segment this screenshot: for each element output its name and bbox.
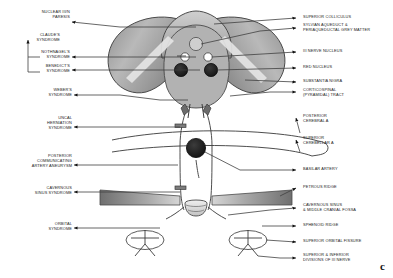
- label-orbital-syndrome: ORBITAL SYNDROME: [2, 222, 72, 232]
- label-sylvian-aqueduct-pag: SYLVIAN AQUEDUCT & PERIAQUEDUCTAL GREY M…: [303, 23, 393, 33]
- label-corticospinal-tract: CORTICOSPINAL (PYRAMIDAL) TRACT: [303, 88, 391, 98]
- basilar-artery-cross-section: [186, 138, 205, 157]
- left-cavernous-sinus-wall: [166, 207, 184, 219]
- right-iii-nerve-nucleus: [204, 53, 212, 61]
- label-superior-orbital-fissure: SUPERIOR ORBITAL FISSURE: [303, 239, 393, 244]
- corner-mark: c: [380, 260, 385, 272]
- third-nerve-course: [180, 108, 212, 210]
- leader-superior-cerebellar-artery: [296, 140, 300, 152]
- label-iii-nerve-nucleus: III NERVE NUCLEUS: [303, 49, 391, 54]
- leader-superior-orbital-fissure: [266, 240, 296, 242]
- right-petrous-ridge: [212, 190, 292, 205]
- sella-pituitary: [185, 200, 207, 216]
- label-red-nucleus: RED NUCLEUS: [303, 65, 391, 70]
- label-basilar-artery: BASILAR ARTERY: [303, 167, 391, 172]
- right-red-nucleus: [204, 63, 217, 76]
- leader-basilar-artery: [205, 152, 296, 170]
- leader-cavernous-sinus-mcf: [228, 208, 296, 215]
- leader-iii-nerve-divisions: [258, 256, 296, 258]
- label-claudes-syndrome: CLAUDE'S SYNDROME: [2, 33, 60, 43]
- label-cavernous-sinus-mcf: CAVERNOUS SINUS & MIDDLE CRANIAL FOSSA: [303, 203, 393, 213]
- label-nuclear-iii-n-paresis: NUCLEAR III/N PARESIS: [2, 10, 70, 20]
- left-iii-nerve: [180, 108, 187, 210]
- right-cavernous-sinus-wall: [208, 207, 226, 219]
- label-posterior-cerebral-artery: POSTERIOR CEREBRAL A: [303, 114, 391, 124]
- right-iii-nerve-divisions: [234, 230, 262, 256]
- posterior-cerebral-artery: [112, 131, 318, 141]
- label-pcom-artery-aneurysm: POSTERIOR COMMUNICATING ARTERY ANEURYSM: [2, 154, 72, 169]
- label-cavernous-sinus-syndrome: CAVERNOUS SINUS SYNDROME: [2, 186, 72, 196]
- label-nothnagels-syndrome: NOTHNAGEL'S SYNDROME: [2, 50, 70, 60]
- left-iii-nerve-divisions: [131, 230, 159, 256]
- leader-posterior-cerebral-artery: [296, 118, 300, 133]
- label-petrous-ridge: PETROUS RIDGE: [303, 185, 391, 190]
- orbital-fissures: [126, 230, 267, 256]
- label-uncal-herniation-syndrome: UNCAL HERNIATION SYNDROME: [2, 116, 72, 131]
- label-webers-syndrome: WEBER'S SYNDROME: [2, 88, 72, 98]
- label-superior-colliculus: SUPERIOR COLLICULUS: [303, 15, 391, 20]
- label-superior-cerebellar-artery: SUPERIOR CEREBELLAR A: [303, 136, 391, 146]
- label-benedicts-syndrome: BENEDICT'S SYNDROME: [2, 64, 70, 74]
- basilar-artery-trunk: [196, 160, 199, 178]
- label-sphenoid-ridge: SPHENOID RIDGE: [303, 223, 391, 228]
- leader-corticospinal-tract: [230, 92, 296, 96]
- sylvian-aqueduct: [189, 37, 202, 50]
- uncal-herniation-marker: [175, 186, 186, 189]
- right-iii-nerve: [205, 108, 212, 210]
- anatomy-diagram: NUCLEAR III/N PARESIS CLAUDE'S SYNDROME …: [0, 0, 393, 278]
- label-substantia-nigra: SUBSTANTIA NIGRA: [303, 79, 391, 84]
- vascular-structures: [112, 131, 328, 178]
